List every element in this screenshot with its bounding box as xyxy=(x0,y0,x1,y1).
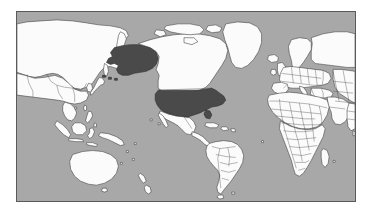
landmass-falklands xyxy=(232,192,235,194)
landmass-russia-west xyxy=(311,32,355,68)
map-frame xyxy=(16,11,356,202)
world-map-svg xyxy=(17,12,355,201)
landmass-india xyxy=(347,103,355,131)
landmass-taiwan xyxy=(84,105,87,111)
world-map-figure xyxy=(0,0,371,215)
landmass-sri-lanka xyxy=(353,131,355,136)
landmass-tasmania xyxy=(102,188,108,192)
